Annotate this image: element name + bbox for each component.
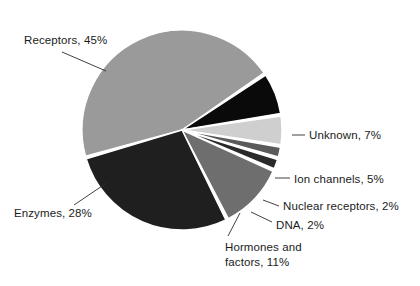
- slice-label-hormones-line2: factors, 11%: [225, 256, 289, 268]
- slice-label-nuclear-receptors: Nuclear receptors, 2%: [283, 199, 399, 214]
- nuclear-leader: [263, 200, 279, 206]
- slice-label-enzymes: Enzymes, 28%: [14, 206, 92, 221]
- slice-label-dna: DNA, 2%: [276, 218, 324, 233]
- dna-leader: [251, 212, 272, 222]
- enzymes-leader: [74, 182, 108, 205]
- slice-label-unknown: Unknown, 7%: [309, 128, 381, 143]
- pie-slice-group: [82, 30, 282, 230]
- pie-chart-figure: Receptors, 45% Enzymes, 28% Unknown, 7% …: [0, 0, 420, 286]
- slice-label-hormones-line1: Hormones and: [225, 241, 302, 253]
- slice-label-hormones-and-factors: Hormones and factors, 11%: [225, 240, 321, 270]
- slice-label-receptors: Receptors, 45%: [24, 33, 107, 48]
- receptors-leader: [62, 52, 106, 71]
- slice-label-ion-channels: Ion channels, 5%: [294, 172, 384, 187]
